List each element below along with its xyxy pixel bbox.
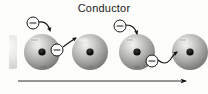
nucleus <box>133 48 140 55</box>
electron-1 <box>27 17 39 29</box>
diagram-scene <box>0 0 208 94</box>
nucleus <box>38 48 45 55</box>
hop-arrow-3 <box>126 25 137 34</box>
hop-arrow-1 <box>39 22 50 31</box>
electron-2 <box>51 44 63 56</box>
electron-4 <box>146 55 158 67</box>
electron-3 <box>114 20 126 32</box>
figure-canvas: Conductor <box>0 0 208 94</box>
atom-2 <box>72 34 108 70</box>
nucleus <box>86 48 93 55</box>
nucleus <box>186 48 193 55</box>
atom-4 <box>172 34 208 70</box>
